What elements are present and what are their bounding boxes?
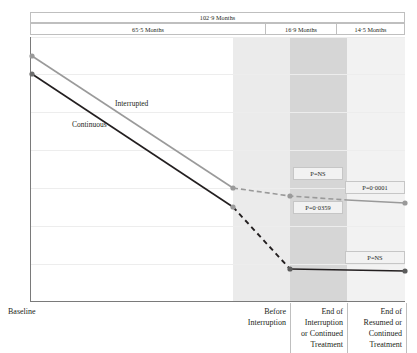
duration-band-row: 65·5 Months 16·9 Months 14·5 Months (30, 23, 405, 35)
x-label-divider-3 (406, 303, 407, 353)
pvalue-end-resumed-ns: P=NS (345, 251, 405, 264)
point-interrupted-baseline (29, 53, 34, 58)
point-continuous-end-interrupt (287, 266, 292, 271)
x-label-end-interruption-line4: Treatment (292, 339, 343, 350)
x-label-end-resumed-line3: Continued (349, 328, 402, 339)
series-label-interrupted: Interrupted (115, 99, 148, 108)
x-label-before-interruption-line2: Interruption (200, 317, 286, 328)
series-label-continuous: Continuous (72, 120, 107, 129)
duration-band-total: 102·9 Months (30, 12, 405, 23)
x-label-end-interruption-line1: End of (292, 306, 343, 317)
point-interrupted-end-resumed (402, 200, 407, 205)
x-label-divider-2 (347, 303, 348, 353)
pvalue-end-resumed-0001: P=0·0001 (345, 181, 405, 194)
duration-band-segment-3: 14·5 Months (336, 23, 405, 35)
x-axis-labels: Baseline Before Interruption End of Inte… (0, 303, 417, 353)
series-continuous-tail (290, 269, 405, 271)
x-label-end-resumed-line1: End of (349, 306, 402, 317)
point-continuous-baseline (29, 71, 34, 76)
duration-band-segment-2: 16·9 Months (265, 23, 336, 35)
x-label-end-interruption-line2: Interruption (292, 317, 343, 328)
point-continuous-before (230, 204, 235, 209)
point-continuous-end-resumed (402, 268, 407, 273)
series-continuous-dashed (233, 207, 290, 269)
x-label-divider-1 (290, 303, 291, 353)
series-interrupted-tail (347, 200, 405, 203)
x-label-end-interruption-line3: or Continued (292, 328, 343, 339)
pvalue-end-interruption-0359: P=0·0359 (293, 201, 343, 214)
point-interrupted-before (230, 185, 235, 190)
x-label-before-interruption-line1: Before (200, 306, 286, 317)
duration-band-segment-1: 65·5 Months (30, 23, 265, 35)
pvalue-end-interruption-ns: P=NS (293, 167, 343, 180)
x-label-baseline: Baseline (8, 306, 78, 317)
x-label-end-resumed-line4: Treatment (349, 339, 402, 350)
series-interrupted-solid (32, 56, 233, 188)
series-continuous-solid (32, 74, 233, 207)
figure-root: 102·9 Months 65·5 Months 16·9 Months 14·… (0, 0, 417, 353)
plot-area: Interrupted Continuous P=NS P=0·0359 P=0… (30, 37, 405, 302)
point-interrupted-end-interrupt (287, 193, 292, 198)
x-label-end-resumed-line2: Resumed or (349, 317, 402, 328)
